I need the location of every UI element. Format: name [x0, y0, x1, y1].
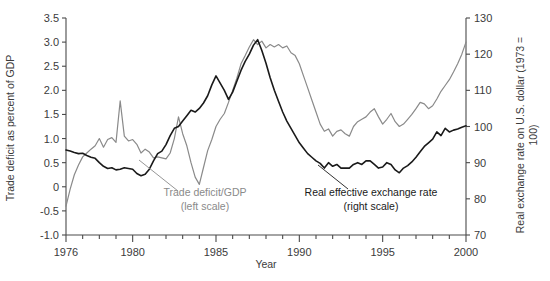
y-tick-label-left: 2.5 [44, 60, 59, 72]
y-tick-label-left: -1.0 [40, 229, 59, 241]
exchange-rate-annotation-line2: (right scale) [344, 200, 399, 212]
trade-deficit-exchange-rate-chart: -1.0-0.500.51.01.52.02.53.03.57080901001… [0, 0, 550, 281]
y-axis-label-right: Real exchange rate on U.S. dollar (1973 … [514, 35, 540, 235]
y-tick-label-left: 3.5 [44, 12, 59, 24]
x-tick-label: 1995 [370, 246, 394, 258]
y-tick-label-right: 100 [474, 121, 492, 133]
x-tick-label: 1985 [204, 246, 228, 258]
x-tick-label: 1976 [54, 246, 78, 258]
y-tick-label-right: 130 [474, 12, 492, 24]
x-tick-label: 1990 [287, 246, 311, 258]
y-tick-label-right: 110 [474, 84, 492, 96]
y-tick-label-left: 2.0 [44, 84, 59, 96]
y-tick-label-left: 3.0 [44, 36, 59, 48]
trade-deficit-annotation-line1: Trade deficit/GDP [163, 186, 246, 198]
y-tick-label-left: 0.5 [44, 157, 59, 169]
y-tick-label-left: -0.5 [40, 205, 59, 217]
y-tick-label-right: 120 [474, 48, 492, 60]
x-tick-label: 1980 [120, 246, 144, 258]
y-tick-label-left: 1.0 [44, 133, 59, 145]
y-tick-label-right: 70 [474, 229, 486, 241]
y-tick-label-right: 80 [474, 193, 486, 205]
y-tick-label-right: 90 [474, 157, 486, 169]
trade-deficit-annotation-line2: (left scale) [181, 200, 229, 212]
x-tick-label: 2000 [454, 246, 478, 258]
exchange-rate-annotation-line1: Real effective exchange rate [305, 186, 438, 198]
y-axis-label-right-wrap: Real exchange rate on U.S. dollar (1973 … [497, 0, 550, 281]
y-tick-label-left: 1.5 [44, 108, 59, 120]
y-tick-label-left: 0 [53, 181, 59, 193]
x-axis-label: Year [255, 258, 277, 270]
y-axis-label-left: Trade deficit as percent of GDP [4, 55, 16, 202]
chart-container: -1.0-0.500.51.01.52.02.53.03.57080901001… [0, 0, 550, 281]
